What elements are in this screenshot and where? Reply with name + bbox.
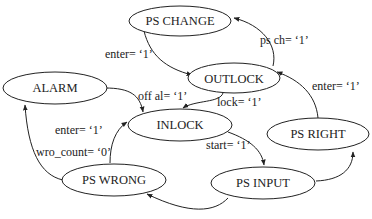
edge-ps-wrong-to-inlock (110, 122, 127, 163)
edge-label-enter-ps-right: enter= ‘1’ (312, 79, 360, 93)
edge-label-start: start= ‘1’ (206, 138, 250, 152)
state-label-alarm: ALARM (32, 81, 77, 95)
edge-label-wro-count: wro_count= ‘0’ (36, 145, 111, 159)
edge-label-off-al: off al= ‘1’ (138, 89, 187, 103)
state-ps-wrong: PS WRONG (62, 164, 166, 196)
state-label-ps-right: PS RIGHT (290, 127, 346, 141)
state-ps-change: PS CHANGE (129, 6, 231, 36)
edge-label-enter-ps-wrong: enter= ‘1’ (55, 123, 103, 137)
edge-label-lock: lock= ‘1’ (217, 95, 261, 109)
state-ps-input: PS INPUT (211, 167, 315, 199)
state-label-ps-wrong: PS WRONG (82, 173, 146, 187)
edge-label-enter-ps-change: enter= ‘1’ (105, 47, 153, 61)
state-outlock: OUTLOCK (188, 63, 280, 93)
state-label-outlock: OUTLOCK (204, 72, 264, 86)
state-label-inlock: INLOCK (156, 118, 203, 132)
state-label-ps-input: PS INPUT (236, 176, 290, 190)
state-label-ps-change: PS CHANGE (145, 14, 214, 28)
state-ps-right: PS RIGHT (267, 118, 369, 150)
edge-label-ps-ch: ps ch= ‘1’ (260, 33, 309, 47)
state-alarm: ALARM (3, 72, 107, 104)
state-inlock: INLOCK (128, 109, 232, 141)
edge-ps-input-to-ps-wrong (147, 194, 228, 209)
state-diagram: PS CHANGE OUTLOCK ALARM INLOCK PS RIGHT … (0, 0, 372, 219)
edge-ps-input-to-ps-right (316, 152, 353, 181)
edge-ps-wrong-to-alarm (25, 105, 63, 180)
